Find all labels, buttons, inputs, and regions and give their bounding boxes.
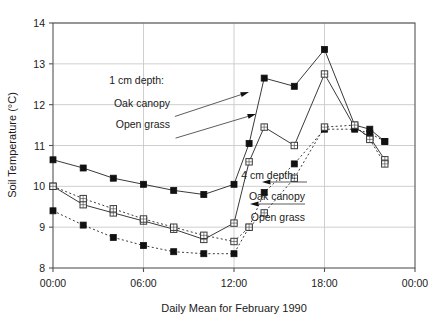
x-tick-label-4: 00:00: [402, 277, 428, 289]
data-point-s0-7: [246, 141, 252, 147]
y-tick-label-10: 10: [33, 180, 45, 192]
data-point-s2-3: [141, 243, 147, 249]
y-tick-label-13: 13: [33, 58, 45, 70]
y-tick-label-11: 11: [34, 140, 45, 152]
data-point-s0-2: [110, 175, 116, 181]
annotation-ann-4cm-grass: Open grass: [251, 211, 305, 223]
annotation-ann-4cm-oak: Oak canopy: [249, 190, 306, 202]
data-point-s2-6: [231, 251, 237, 257]
data-point-s2-12: [367, 130, 373, 136]
x-tick-label-0: 00:00: [40, 277, 66, 289]
x-axis-title: Daily Mean for February 1990: [161, 302, 307, 314]
x-tick-label-1: 06:00: [130, 277, 156, 289]
annotation-ann-1cm-header: 1 cm depth:: [109, 74, 164, 86]
data-point-s2-2: [110, 234, 116, 240]
annotation-ann-1cm-oak: Oak canopy: [114, 97, 171, 109]
chart-background: [0, 0, 438, 321]
chart-screenshot: 891011121314 00:0006:0012:0018:0000:00 1…: [0, 0, 438, 321]
data-point-s0-10: [322, 47, 328, 53]
x-tick-label-2: 12:00: [221, 277, 247, 289]
data-point-s0-6: [231, 181, 237, 187]
data-point-s2-13: [382, 138, 388, 144]
y-axis-title: Soil Temperature (°C): [6, 92, 18, 198]
y-tick-label-8: 8: [39, 262, 45, 274]
data-point-s2-9: [291, 161, 297, 167]
y-tick-label-12: 12: [33, 99, 45, 111]
soil-temperature-line-chart: 891011121314 00:0006:0012:0018:0000:00 1…: [0, 0, 438, 321]
data-point-s0-4: [171, 187, 177, 193]
data-point-s0-1: [80, 165, 86, 171]
y-tick-label-14: 14: [33, 17, 45, 29]
y-tick-label-9: 9: [39, 221, 45, 233]
data-point-s0-0: [50, 157, 56, 163]
x-tick-label-3: 18:00: [311, 277, 337, 289]
data-point-s0-5: [201, 192, 207, 198]
data-point-s2-5: [201, 251, 207, 257]
data-point-s2-0: [50, 208, 56, 214]
data-point-s0-9: [291, 83, 297, 89]
annotation-ann-4cm-header: 4 cm depth:: [241, 169, 296, 181]
data-point-s0-3: [141, 181, 147, 187]
data-point-s2-1: [80, 222, 86, 228]
data-point-s0-8: [261, 75, 267, 81]
annotation-ann-1cm-grass: Open grass: [116, 118, 170, 130]
data-point-s2-4: [171, 249, 177, 255]
